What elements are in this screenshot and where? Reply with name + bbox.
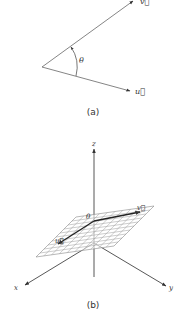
figure-canvas: v⃗ u⃗ θ (a) (0, 0, 184, 322)
vector-v-label-3d: v⃗ (137, 204, 145, 212)
plane-grid (36, 206, 154, 257)
vector-u-label-3d: u⃗ (55, 237, 64, 245)
x-axis-label: x (14, 284, 18, 292)
vector-u-label: u⃗ (135, 87, 145, 96)
figure-b: z x y θ u⃗ v⃗ (b) (14, 140, 174, 310)
vector-v-arrow (42, 1, 133, 67)
y-axis (94, 243, 166, 286)
caption-a: (a) (87, 107, 100, 117)
angle-arc (71, 47, 77, 76)
vector-u-arrow (42, 67, 130, 91)
z-axis-label: z (91, 140, 96, 148)
figure-a: v⃗ u⃗ θ (a) (42, 0, 150, 117)
y-axis-label: y (168, 284, 174, 292)
vector-v-label: v⃗ (140, 0, 150, 6)
caption-b: (b) (87, 300, 100, 310)
theta-label: θ (79, 56, 84, 65)
